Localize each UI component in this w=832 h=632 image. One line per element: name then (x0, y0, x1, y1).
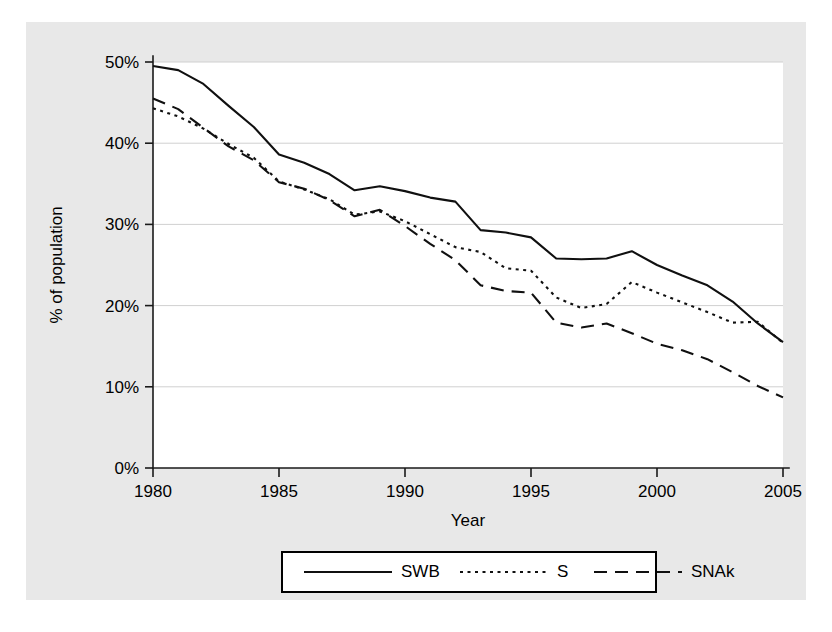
y-tick-label: 40% (105, 134, 139, 153)
chart-figure: 0%10%20%30%40%50% 1980198519901995200020… (0, 0, 832, 632)
legend-label-snak: SNAk (691, 562, 735, 581)
legend-label-s: S (557, 562, 568, 581)
x-tick-label: 1980 (134, 482, 172, 501)
x-tick-label: 2000 (638, 482, 676, 501)
y-tick-label: 10% (105, 378, 139, 397)
x-tick-label: 1990 (386, 482, 424, 501)
x-tick-label: 2005 (764, 482, 802, 501)
x-tick-label: 1995 (512, 482, 550, 501)
y-tick-label: 20% (105, 297, 139, 316)
y-tick-label: 0% (114, 459, 139, 478)
x-axis-title: Year (451, 511, 486, 530)
x-tick-label: 1985 (260, 482, 298, 501)
y-axis-title: % of population (47, 206, 66, 323)
y-tick-label: 30% (105, 215, 139, 234)
legend-label-swb: SWB (401, 562, 440, 581)
y-tick-label: 50% (105, 53, 139, 72)
